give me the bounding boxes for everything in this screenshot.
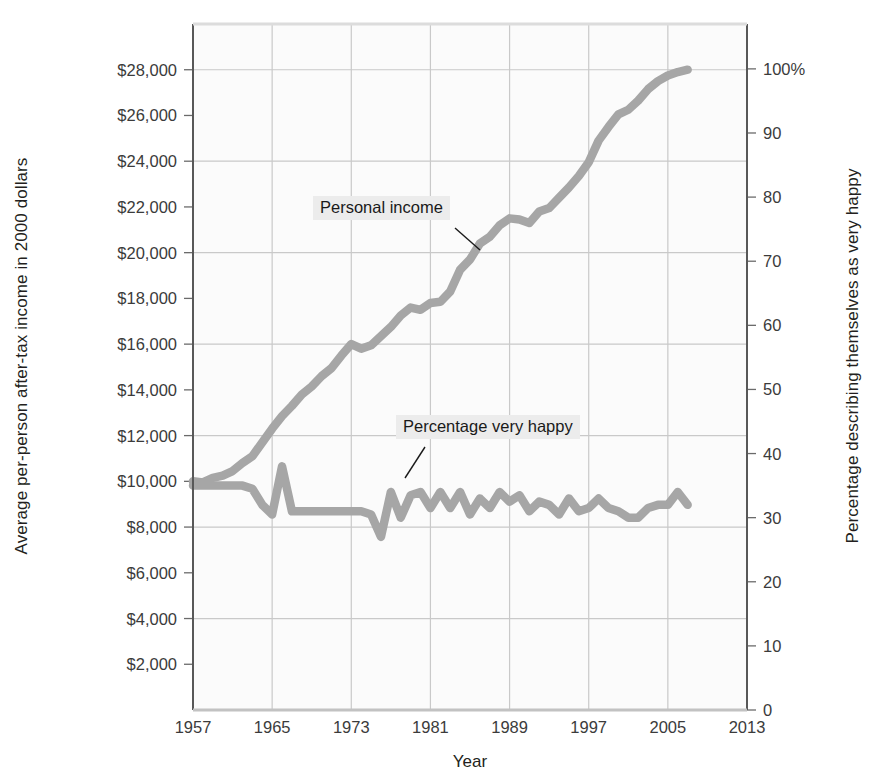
x-axis-tick-label: 1957	[175, 718, 212, 737]
x-axis-title: Year	[193, 752, 747, 772]
y-axis-left-tick-label: $28,000	[0, 60, 177, 79]
y-axis-right-tick-label: 50	[763, 380, 781, 399]
y-axis-right-tick-label: 80	[763, 188, 781, 207]
y-axis-left-tick-label: $22,000	[0, 197, 177, 216]
y-axis-right-tick-label: 60	[763, 316, 781, 335]
x-axis-tick-label: 1973	[333, 718, 370, 737]
chart-figure: Average per-person after-tax income in 2…	[0, 0, 875, 783]
y-axis-right-tick-label: 40	[763, 444, 781, 463]
y-axis-left-tick-label: $16,000	[0, 335, 177, 354]
y-axis-left-tick-label: $18,000	[0, 289, 177, 308]
plot-background	[193, 24, 747, 710]
plot-area-background	[193, 24, 747, 710]
y-axis-left-tick-label: $14,000	[0, 380, 177, 399]
x-axis-tick-label: 2005	[649, 718, 686, 737]
x-axis-tick-label: 1989	[491, 718, 528, 737]
y-axis-left-tick-label: $8,000	[0, 518, 177, 537]
y-axis-left-tick-label: $20,000	[0, 243, 177, 262]
y-axis-left-tick-label: $2,000	[0, 655, 177, 674]
y-axis-right-tick-label: 100%	[763, 59, 805, 78]
y-axis-left-tick-label: $6,000	[0, 563, 177, 582]
x-axis-tick-label: 2013	[729, 718, 766, 737]
y-axis-right-tick-label: 30	[763, 508, 781, 527]
y-axis-right-tick-label: 20	[763, 572, 781, 591]
x-axis-tick-label: 1997	[570, 718, 607, 737]
y-axis-left-tick-label: $4,000	[0, 609, 177, 628]
x-axis-tick-label: 1981	[412, 718, 449, 737]
y-axis-left-tick-label: $26,000	[0, 106, 177, 125]
annotation-personal-income: Personal income	[313, 196, 450, 220]
annotation-percentage-very-happy: Percentage very happy	[396, 415, 580, 439]
y-axis-left-tick-label: $10,000	[0, 472, 177, 491]
y-axis-right-tick-label: 10	[763, 636, 781, 655]
y-axis-left-tick-label: $24,000	[0, 152, 177, 171]
y-axis-right-tick-label: 70	[763, 252, 781, 271]
y-axis-right-tick-label: 90	[763, 123, 781, 142]
y-axis-right-title: Percentage describing themselves as very…	[831, 6, 875, 706]
x-axis-tick-label: 1965	[254, 718, 291, 737]
y-axis-left-tick-label: $12,000	[0, 426, 177, 445]
y-axis-right-tick-label: 0	[763, 701, 772, 720]
